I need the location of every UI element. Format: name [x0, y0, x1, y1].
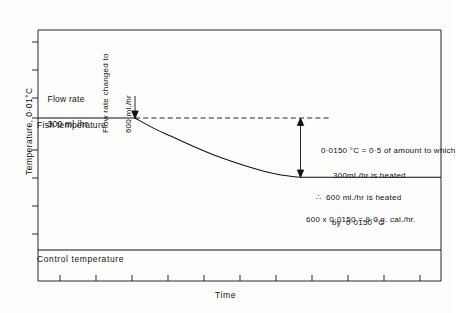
y-axis-label: Temperature, 0·01°C	[24, 56, 34, 206]
delta-arrow-head-bottom	[297, 170, 303, 177]
delta-measure-double-arrow	[297, 118, 303, 177]
x-axis-label: Time	[0, 290, 451, 300]
delta-arrow-head-top	[297, 118, 303, 125]
calculation-annotation: 600 x 0·0150 = 9·0 g. cal./hr.	[306, 215, 416, 225]
conclusion-annotation-line1: ∴ 600 ml./hr is heated	[316, 193, 401, 202]
temperature-decay-curve	[135, 118, 301, 177]
flow-rate-label: Flow rate 300 ml./hr	[37, 81, 88, 143]
flow-rate-label-line1: Flow rate	[47, 94, 84, 104]
flow-change-annotation-line2: 600 ml./hr	[124, 95, 133, 133]
x-axis-ticks	[60, 275, 420, 281]
fish-temperature-label: Fish temperature	[37, 120, 106, 130]
delta-annotation-line1: 0·0150 °C = 0·5 of amount to which	[321, 146, 456, 155]
control-temperature-label: Control temperature	[37, 254, 124, 264]
